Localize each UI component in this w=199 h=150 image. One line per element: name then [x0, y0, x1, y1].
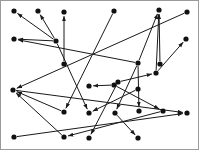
graph-edge — [17, 92, 61, 111]
graph-node — [111, 8, 116, 13]
graph-edge — [138, 66, 139, 107]
graph-node — [53, 38, 58, 43]
graph-edge — [66, 14, 113, 109]
graph-node — [35, 8, 40, 13]
graph-node — [183, 36, 188, 41]
graph-node — [153, 70, 158, 75]
graph-node — [11, 134, 16, 139]
graph-node — [184, 9, 189, 14]
graph-node — [86, 83, 91, 88]
graph-edge — [117, 115, 135, 135]
graph-node — [135, 86, 140, 91]
graph-figure — [0, 0, 199, 150]
graph-edge — [93, 85, 111, 86]
graph-node — [115, 79, 120, 84]
graph-node — [184, 110, 189, 115]
graph-node — [135, 135, 140, 140]
graph-edge — [121, 74, 152, 81]
graph-node — [61, 134, 66, 139]
graph-edge — [158, 42, 183, 71]
graph-edge — [117, 66, 137, 109]
graph-node — [112, 110, 117, 115]
graph-edge — [17, 13, 184, 88]
graph-node — [135, 60, 140, 65]
graph-node — [61, 9, 66, 14]
graph-node — [10, 87, 15, 92]
graph-node — [11, 8, 16, 13]
graph-edge — [156, 14, 159, 70]
graph-canvas — [1, 1, 199, 150]
edge-layer — [16, 13, 184, 136]
graph-node — [157, 61, 162, 66]
graph-node — [86, 135, 91, 140]
graph-node — [61, 109, 66, 114]
graph-edge — [16, 90, 183, 112]
graph-node — [61, 61, 66, 66]
graph-edge — [159, 14, 160, 61]
graph-node — [136, 108, 141, 113]
graph-edge — [16, 93, 62, 135]
graph-edge — [17, 13, 53, 39]
graph-node — [11, 36, 16, 41]
graph-node — [86, 110, 91, 115]
graph-node — [160, 108, 165, 113]
graph-edge — [139, 14, 157, 60]
graph-node — [156, 7, 161, 12]
